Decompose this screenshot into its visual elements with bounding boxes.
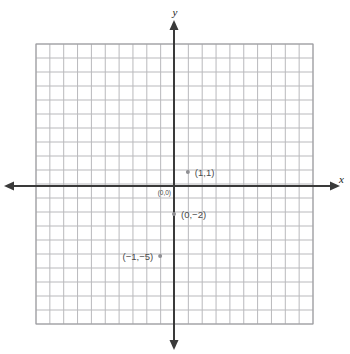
y-axis-label: y [172, 6, 178, 18]
coordinate-plane-svg: y x (0,0)(1,1)(0,−2)(−1,−5) [0, 0, 350, 354]
coordinate-plane-figure: y x (0,0)(1,1)(0,−2)(−1,−5) [0, 0, 350, 354]
point-label: (0,0) [158, 189, 171, 197]
plotted-point-marker [172, 212, 176, 216]
plotted-point-marker [158, 254, 162, 258]
point-label: (0,−2) [181, 209, 206, 220]
x-axis-label: x [338, 173, 344, 185]
point-label: (1,1) [195, 167, 215, 178]
point-label: (−1,−5) [123, 251, 154, 262]
plotted-point-marker [186, 170, 190, 174]
